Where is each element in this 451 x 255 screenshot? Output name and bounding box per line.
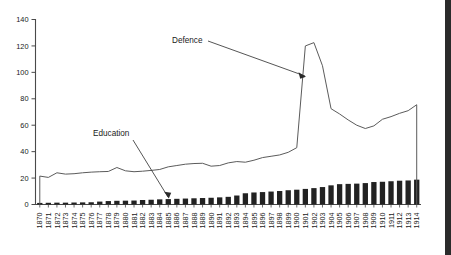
- bar-education: [131, 201, 136, 205]
- bar-education: [397, 181, 402, 205]
- bar-education: [311, 188, 316, 204]
- bar-education: [191, 198, 196, 204]
- bar-education: [114, 201, 119, 205]
- bar-education: [268, 192, 273, 205]
- bar-education: [226, 197, 231, 205]
- bar-education: [97, 202, 102, 205]
- chart-canvas: 020406080100120140 187018711872187318741…: [0, 0, 451, 255]
- y-tick-label: 40: [20, 147, 28, 156]
- x-axis: 1870187118721873187418751876187718781879…: [35, 205, 421, 229]
- y-tick-label: 20: [20, 174, 28, 183]
- bar-education: [208, 198, 213, 205]
- bar-education: [337, 184, 342, 204]
- bar-education: [217, 197, 222, 204]
- chart-figure: 020406080100120140 187018711872187318741…: [0, 0, 451, 255]
- bar-education: [371, 182, 376, 204]
- annotation-arrowhead-education: [164, 192, 171, 199]
- bar-education: [251, 192, 256, 204]
- bar-education: [166, 199, 171, 204]
- y-tick-label: 140: [16, 15, 28, 24]
- annotation-arrow-defence: [208, 41, 305, 76]
- bar-education: [89, 202, 94, 204]
- y-axis: 020406080100120140: [16, 15, 35, 209]
- y-tick-label: 0: [24, 200, 28, 209]
- defence-line-path: [40, 43, 417, 178]
- y-tick-label: 100: [16, 68, 28, 77]
- y-tick-label: 120: [16, 42, 28, 51]
- bar-education: [46, 203, 51, 205]
- bar-education: [243, 193, 248, 204]
- bar-education: [148, 200, 153, 205]
- bar-education: [320, 187, 325, 204]
- education-bar-series: [37, 180, 419, 205]
- annotation-label-education: Education: [93, 129, 130, 138]
- bar-education: [260, 192, 265, 204]
- bar-education: [80, 202, 85, 204]
- bar-education: [363, 183, 368, 204]
- bar-education: [140, 200, 145, 204]
- bar-education: [354, 184, 359, 205]
- bar-education: [157, 199, 162, 204]
- bar-education: [106, 201, 111, 204]
- x-tick-label: 1914: [412, 213, 421, 229]
- bar-education: [405, 180, 410, 204]
- bar-education: [174, 199, 179, 205]
- bar-education: [388, 181, 393, 204]
- y-axis-ticks: 020406080100120140: [16, 15, 35, 209]
- bar-education: [183, 199, 188, 205]
- bar-education: [71, 203, 76, 205]
- defence-line-series: [40, 43, 417, 205]
- annotation-label-defence: Defence: [172, 36, 203, 45]
- bar-education: [380, 182, 385, 205]
- bar-education: [328, 185, 333, 204]
- y-tick-label: 80: [20, 94, 28, 103]
- bar-education: [123, 201, 128, 205]
- bar-education: [200, 198, 205, 204]
- bar-education: [63, 203, 68, 205]
- y-tick-label: 60: [20, 121, 28, 130]
- chart-annotations: Defence Education: [93, 36, 306, 199]
- bar-education: [286, 190, 291, 204]
- bar-education: [303, 189, 308, 205]
- bar-education: [294, 190, 299, 205]
- right-edge-band: [445, 0, 451, 255]
- bar-education: [346, 184, 351, 205]
- bar-education: [234, 196, 239, 205]
- bar-education: [54, 203, 59, 205]
- bar-education: [277, 191, 282, 204]
- x-axis-tick-labels: 1870187118721873187418751876187718781879…: [35, 213, 421, 229]
